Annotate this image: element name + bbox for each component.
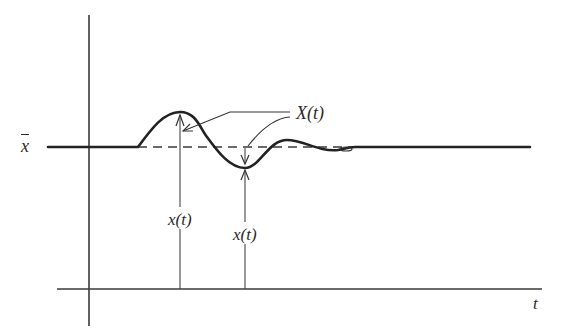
mean-level-label: x <box>21 136 29 157</box>
envelope-leader-trough <box>248 117 290 146</box>
trough-value-label: x(t) <box>233 226 257 243</box>
peak-value-label: x(t) <box>168 211 192 228</box>
response-diagram <box>0 0 566 336</box>
time-axis-label: t <box>533 295 538 312</box>
envelope-label: X(t) <box>296 104 324 122</box>
signal-curve <box>48 112 530 168</box>
